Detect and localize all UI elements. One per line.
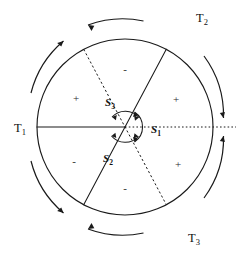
label-S1-sub: 1 — [157, 129, 161, 138]
label-S3: S3 — [105, 96, 115, 111]
sign-upper-left: + — [73, 92, 79, 104]
label-T3-sub: 3 — [196, 237, 200, 247]
arrowhead-T2-top — [88, 25, 94, 31]
arrowhead-T3-right — [220, 136, 225, 142]
arc-T3-right — [204, 136, 224, 198]
arc-T2-top — [88, 19, 144, 25]
sign-top: - — [123, 63, 127, 75]
sign-lower-right: + — [175, 158, 181, 170]
figure-root: T1 T2 T3 S1 S2 S3 - + + - - + — [0, 0, 242, 253]
label-T3: T3 — [188, 231, 200, 247]
label-T2-sub: 2 — [204, 17, 208, 27]
sign-lower-left: - — [72, 155, 76, 167]
arrowhead-T2-right — [220, 112, 225, 118]
label-T1-sub: 1 — [22, 127, 26, 137]
label-S2-sub: 2 — [109, 158, 113, 167]
arrowhead-T3-bottom — [88, 223, 94, 229]
label-T1: T1 — [14, 121, 26, 137]
label-S3-sub: 3 — [111, 102, 115, 111]
arc-T2-right — [204, 56, 224, 118]
arc-T3-bottom — [88, 229, 144, 235]
rotation-diagram: T1 T2 T3 S1 S2 S3 - + + - - + — [0, 0, 242, 253]
label-T2: T2 — [196, 11, 208, 27]
sign-upper-right: + — [173, 93, 179, 105]
sign-bottom: - — [123, 182, 127, 194]
label-S1: S1 — [151, 123, 161, 138]
